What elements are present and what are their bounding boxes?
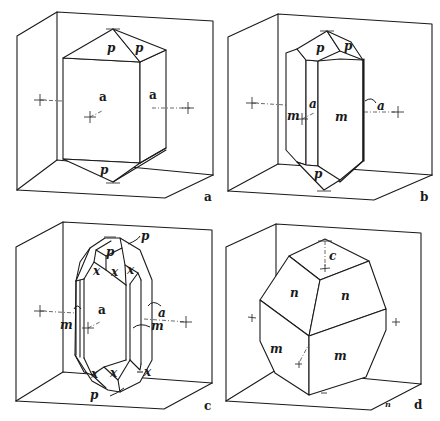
face-label-p: p <box>107 41 116 55</box>
panel-c: p p x x x a m a m x x x p c <box>16 222 212 413</box>
face-label-m: m <box>334 349 347 363</box>
face-label-p: p <box>141 229 150 243</box>
panel-d: c n n m m n d <box>226 224 423 412</box>
face-label-a: a <box>149 88 157 102</box>
face-label-p: p <box>100 163 109 177</box>
face-label-m: m <box>60 318 73 332</box>
face-label-x: x <box>90 367 99 381</box>
pointer-arrow <box>128 236 140 244</box>
panel-label-c: c <box>204 399 211 413</box>
crystal-figure: p p a a p a <box>0 0 440 421</box>
face-label-a: a <box>98 303 106 317</box>
face-label-c: c <box>329 249 337 263</box>
face-label-a: a <box>158 306 166 320</box>
face-label-x: x <box>109 366 118 380</box>
face-label-a: a <box>309 97 317 111</box>
face-label-x: x <box>110 265 119 279</box>
panel-label-d: d <box>414 398 423 412</box>
panel-a: p p a a p a <box>17 12 213 204</box>
face-label-m: m <box>287 109 300 123</box>
face-label-m: m <box>270 342 283 356</box>
face-label-n: n <box>341 289 350 303</box>
pointer-arrow <box>365 99 376 103</box>
face-label-p: p <box>314 167 323 181</box>
panel-b: p p a m m a p b <box>228 14 432 204</box>
panel-label-a: a <box>204 190 212 204</box>
face-label-m: m <box>151 319 164 333</box>
face-label-x: x <box>143 365 152 379</box>
corner-mark: n <box>385 399 391 409</box>
face-label-p: p <box>90 388 99 402</box>
face-label-a: a <box>99 90 107 104</box>
face-label-m: m <box>335 110 348 124</box>
face-label-x: x <box>126 263 135 277</box>
face-label-n: n <box>290 286 299 300</box>
face-label-a: a <box>377 99 385 113</box>
face-label-p: p <box>106 245 115 259</box>
face-label-p: p <box>344 39 353 53</box>
panel-label-b: b <box>420 190 428 204</box>
face-label-p: p <box>316 41 325 55</box>
face-label-x: x <box>92 264 101 278</box>
face-label-p: p <box>135 41 144 55</box>
crystal <box>260 239 386 395</box>
